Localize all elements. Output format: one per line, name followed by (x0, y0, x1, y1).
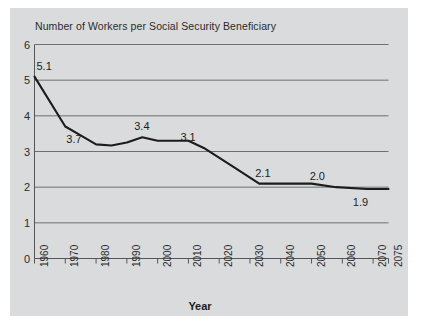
xaxis-tick-label: 2070 (377, 244, 388, 266)
data-point-label: 3.1 (180, 131, 195, 143)
yaxis-tick-label: 6 (12, 39, 30, 51)
xaxis-ticks-group (35, 259, 389, 264)
plot-area (0, 0, 424, 334)
data-point-label: 2.1 (255, 167, 270, 179)
xaxis-tick-label: 2010 (192, 244, 203, 266)
yaxis-tick-label: 0 (12, 253, 30, 265)
xaxis-tick-label: 2000 (162, 244, 173, 266)
data-point-label: 3.4 (134, 120, 149, 132)
data-point-label: 5.1 (37, 60, 52, 72)
xaxis-tick-label: 1980 (100, 244, 111, 266)
xaxis-tick-label: 2075 (393, 244, 404, 266)
gridlines-group (35, 45, 389, 223)
yaxis-tick-label: 2 (12, 181, 30, 193)
xaxis-tick-label: 2050 (316, 244, 327, 266)
xaxis-tick-label: 1970 (69, 244, 80, 266)
xaxis-tick-label: 1990 (131, 244, 142, 266)
xaxis-tick-label: 2020 (223, 244, 234, 266)
yaxis-tick-label: 3 (12, 146, 30, 158)
xaxis-tick-label: 2030 (254, 244, 265, 266)
xaxis-tick-label: 1960 (39, 244, 50, 266)
xaxis-title: Year (188, 300, 211, 312)
data-point-label: 3.7 (66, 133, 81, 145)
yaxis-tick-label: 1 (12, 217, 30, 229)
yaxis-tick-label: 5 (12, 74, 30, 86)
xaxis-tick-label: 2040 (285, 244, 296, 266)
xaxis-tick-label: 2060 (346, 244, 357, 266)
data-point-label: 2.0 (310, 170, 325, 182)
yaxis-tick-label: 4 (12, 110, 30, 122)
data-series-line (35, 77, 389, 189)
data-point-label: 1.9 (353, 196, 368, 208)
chart-figure: Number of Workers per Social Security Be… (0, 0, 424, 334)
